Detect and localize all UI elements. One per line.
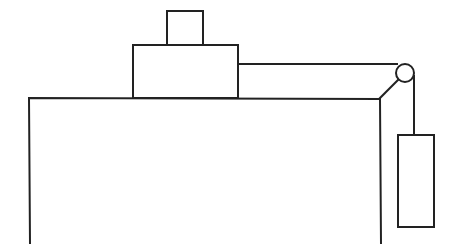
pulley-bracket [380,80,398,98]
pulley-diagram [0,0,455,251]
hanging-mass [398,135,434,227]
lower-block [133,45,238,98]
upper-block [167,11,203,45]
table [29,98,381,243]
